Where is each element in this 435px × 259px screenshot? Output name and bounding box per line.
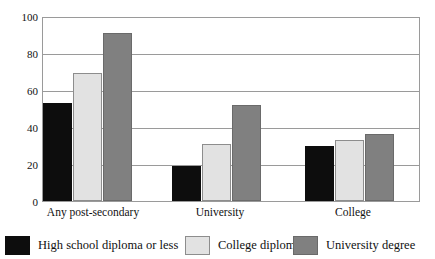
category-label-college: College [288, 205, 418, 219]
bar [365, 134, 394, 201]
legend-label-university-degree: University degree [326, 236, 415, 255]
bar [232, 105, 261, 201]
legend-item-college-diploma: College diploma [185, 234, 301, 256]
y-tick-80: 80 [4, 49, 38, 60]
bar [73, 73, 102, 201]
y-tick-20: 20 [4, 160, 38, 171]
bar-chart-figure: 100 80 60 40 20 0 Any post-secondary Uni… [0, 0, 435, 259]
chart-title-clipped [0, 0, 435, 5]
bar [172, 166, 201, 201]
bars-layer [43, 18, 419, 201]
bar [202, 144, 231, 201]
plot-area [42, 17, 420, 202]
y-axis: 100 80 60 40 20 0 [0, 17, 38, 202]
legend-swatch-mid [293, 236, 318, 255]
legend-swatch-dark [5, 236, 30, 255]
y-tick-40: 40 [4, 123, 38, 134]
bar [335, 140, 364, 201]
y-tick-60: 60 [4, 86, 38, 97]
legend-label-college-diploma: College diploma [218, 236, 301, 255]
legend-swatch-light [185, 236, 210, 255]
bar [305, 146, 334, 202]
legend-label-high-school-diploma-or-less: High school diploma or less [38, 236, 178, 255]
category-label-any-post-secondary: Any post-secondary [8, 205, 178, 219]
legend-item-university-degree: University degree [293, 234, 415, 256]
y-tick-100: 100 [4, 12, 38, 23]
bar [43, 103, 72, 201]
legend-item-high-school-diploma-or-less: High school diploma or less [5, 234, 178, 256]
category-label-university: University [155, 205, 285, 219]
bar [103, 33, 132, 201]
chart-legend: High school diploma or less College dipl… [0, 234, 435, 259]
